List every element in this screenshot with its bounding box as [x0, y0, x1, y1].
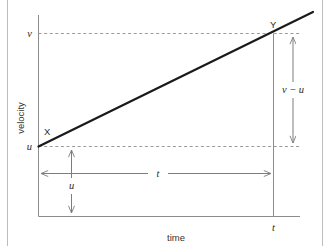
- velocity-time-graph-figure: v − u t u v u t X Y velocity time: [0, 0, 330, 246]
- velocity-line: [39, 12, 314, 147]
- delta-v-label: v − u: [282, 84, 304, 95]
- y-tick-label-u: u: [27, 141, 32, 152]
- initial-velocity-label: u: [69, 180, 74, 191]
- x-tick-label-t: t: [272, 222, 276, 233]
- x-axis-title: time: [167, 232, 185, 243]
- initial-velocity-measure: u: [60, 150, 83, 213]
- delta-v-measure: v − u: [278, 37, 308, 143]
- point-label-x: X: [44, 126, 51, 137]
- point-label-y: Y: [270, 19, 277, 30]
- y-tick-label-v: v: [27, 28, 32, 39]
- page-frame: [8, 0, 323, 246]
- graph-canvas: v − u t u v u t X Y velocity time: [0, 0, 330, 246]
- y-axis-title: velocity: [15, 102, 26, 134]
